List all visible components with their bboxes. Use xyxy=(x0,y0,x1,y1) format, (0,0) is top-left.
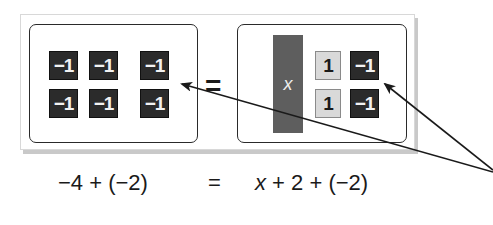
equation-variable: x xyxy=(255,170,266,195)
equation-right-side: x + 2 + (−2) xyxy=(255,170,368,196)
arrow-to-left-tiles xyxy=(182,84,493,172)
equation-equals: = xyxy=(208,170,221,196)
equation-left-side: −4 + (−2) xyxy=(58,170,148,196)
equation-right-terms: + 2 + (−2) xyxy=(266,170,368,195)
